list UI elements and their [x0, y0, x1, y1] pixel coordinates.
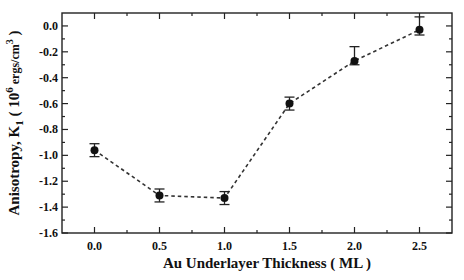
- x-axis-title: Au Underlayer Thickness ( ML ): [163, 255, 371, 272]
- x-tick-label: 2.5: [412, 239, 427, 253]
- x-tick-label: 0.0: [87, 239, 102, 253]
- plot-frame: [62, 13, 452, 233]
- y-axis-title-prefix: Anisotropy, K: [6, 125, 22, 215]
- data-point: [416, 26, 424, 34]
- y-tick-label: -0.2: [39, 45, 58, 59]
- y-tick-label: -0.8: [39, 122, 58, 136]
- y-axis-title: Anisotropy, K1 ( 106 ergs/cm3 ): [3, 31, 25, 216]
- y-axis-title-unit: ergs/cm: [8, 44, 22, 87]
- y-axis-title-suffix: ): [6, 31, 23, 40]
- y-tick-label: -1.6: [39, 226, 58, 240]
- data-point: [221, 194, 229, 202]
- x-tick-label: 1.0: [217, 239, 232, 253]
- y-tick-label: -0.6: [39, 97, 58, 111]
- data-point: [91, 146, 99, 154]
- y-tick-label: -1.2: [39, 174, 58, 188]
- y-tick-label: -0.4: [39, 71, 58, 85]
- data-series: [90, 17, 425, 205]
- y-tick-label: -1.0: [39, 148, 58, 162]
- y-axis-title-mid: ( 10: [6, 93, 23, 121]
- y-tick-label: -1.4: [39, 200, 58, 214]
- data-point: [351, 57, 359, 65]
- x-tick-label: 1.5: [282, 239, 297, 253]
- y-tick-labels: 0.0-0.2-0.4-0.6-0.8-1.0-1.2-1.4-1.6: [39, 19, 58, 240]
- data-point: [156, 191, 164, 199]
- x-tick-labels: 0.00.51.01.52.02.5: [87, 239, 427, 253]
- axis-ticks: [62, 13, 452, 233]
- chart: 0.00.51.01.52.02.5 0.0-0.2-0.4-0.6-0.8-1…: [0, 0, 464, 280]
- x-tick-label: 0.5: [152, 239, 167, 253]
- y-tick-label: 0.0: [43, 19, 58, 33]
- series-line: [95, 30, 420, 198]
- x-tick-label: 2.0: [347, 239, 362, 253]
- data-point: [286, 100, 294, 108]
